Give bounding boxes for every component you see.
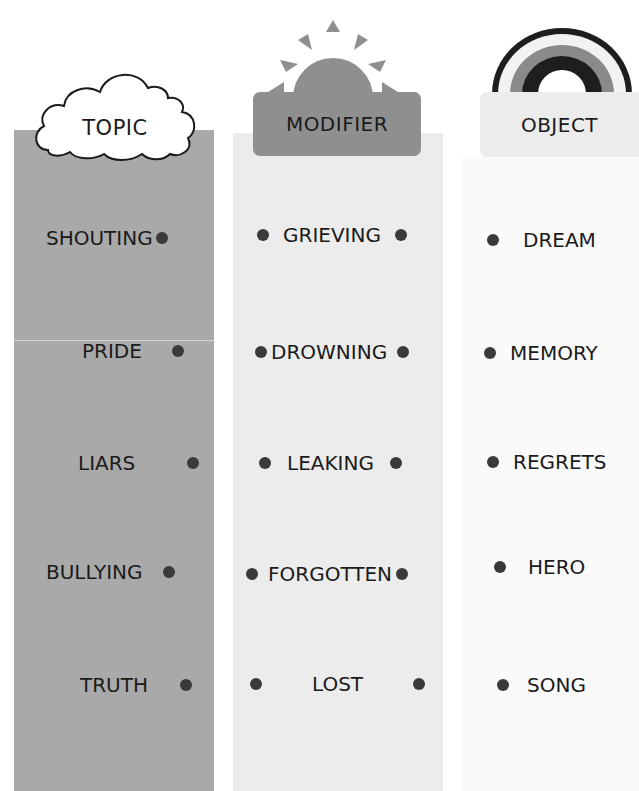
modifier-item: LEAKING [259, 448, 402, 478]
bullet-dot-icon [497, 679, 509, 691]
modifier-item: GRIEVING [257, 220, 407, 250]
topic-word: BULLYING [46, 560, 143, 584]
modifier-word: LOST [312, 672, 363, 696]
object-item: REGRETS [487, 447, 606, 477]
sun-icon [268, 18, 398, 98]
bullet-dot-icon [413, 678, 425, 690]
rainbow-icon [488, 24, 636, 94]
object-item: DREAM [487, 225, 596, 255]
bullet-dot-icon [487, 234, 499, 246]
modifier-word: FORGOTTEN [268, 562, 392, 586]
modifier-item: FORGOTTEN [246, 559, 408, 589]
topic-header-label: TOPIC [40, 108, 190, 148]
bullet-dot-icon [250, 678, 262, 690]
topic-word: PRIDE [82, 339, 142, 363]
topic-item: TRUTH [80, 670, 192, 700]
bullet-dot-icon [259, 457, 271, 469]
object-item: MEMORY [484, 338, 598, 368]
bullet-dot-icon [484, 347, 496, 359]
bullet-dot-icon [390, 457, 402, 469]
object-header-label: OBJECT [521, 113, 598, 137]
object-header-tab: OBJECT [480, 92, 639, 157]
bullet-dot-icon [187, 457, 199, 469]
modifier-word: GRIEVING [283, 223, 381, 247]
bullet-dot-icon [395, 229, 407, 241]
bullet-dot-icon [257, 229, 269, 241]
topic-word: SHOUTING [46, 226, 153, 250]
bullet-dot-icon [397, 346, 409, 358]
bullet-dot-icon [163, 566, 175, 578]
object-item: SONG [497, 670, 586, 700]
object-word: MEMORY [510, 341, 598, 365]
topic-word: LIARS [78, 451, 135, 475]
topic-item: SHOUTING [46, 223, 168, 253]
topic-item: LIARS [78, 448, 199, 478]
bullet-dot-icon [172, 345, 184, 357]
bullet-dot-icon [487, 456, 499, 468]
modifier-word: DROWNING [271, 340, 387, 364]
topic-word: TRUTH [80, 673, 148, 697]
object-word: HERO [528, 555, 585, 579]
object-word: REGRETS [513, 450, 606, 474]
topic-item: BULLYING [46, 557, 175, 587]
bullet-dot-icon [156, 232, 168, 244]
object-item: HERO [494, 552, 585, 582]
bullet-dot-icon [246, 568, 258, 580]
modifier-item: DROWNING [255, 337, 409, 367]
bullet-dot-icon [180, 679, 192, 691]
modifier-item: LOST [250, 669, 425, 699]
bullet-dot-icon [494, 561, 506, 573]
bullet-dot-icon [396, 568, 408, 580]
topic-item: PRIDE [82, 336, 184, 366]
object-word: SONG [527, 673, 586, 697]
object-word: DREAM [523, 228, 596, 252]
bullet-dot-icon [255, 346, 267, 358]
modifier-word: LEAKING [287, 451, 374, 475]
modifier-header-label: MODIFIER [286, 112, 388, 136]
modifier-header-tab: MODIFIER [253, 92, 421, 156]
